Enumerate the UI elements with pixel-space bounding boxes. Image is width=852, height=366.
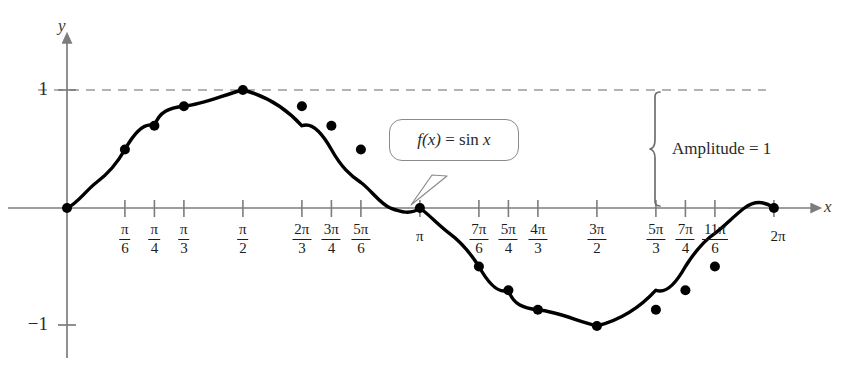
function-callout-box: f(x) = sin x <box>389 119 519 161</box>
x-tick-num-0: π <box>119 222 131 240</box>
x-tick-num-9: 5π <box>499 222 518 240</box>
x-tick-den-2: 3 <box>178 240 190 257</box>
x-tick-num-4: 2π <box>292 222 311 240</box>
x-tick-label-5: 3π4 <box>322 222 341 257</box>
x-tick-label-7: π <box>416 222 424 244</box>
x-tick-den-9: 4 <box>499 240 518 257</box>
callout-variable: x <box>483 130 491 150</box>
x-tick-plain-15: 2π <box>770 222 785 244</box>
x-tick-den-4: 3 <box>292 240 311 257</box>
x-tick-label-15: 2π <box>770 222 785 244</box>
callout-equals-sin: = sin <box>445 130 479 150</box>
x-tick-den-1: 4 <box>149 240 161 257</box>
x-tick-den-11: 2 <box>587 240 606 257</box>
x-tick-num-3: π <box>237 222 249 240</box>
x-tick-label-1: π4 <box>149 222 161 257</box>
y-tick-label-one: 1 <box>18 78 48 100</box>
x-tick-label-8: 7π6 <box>469 222 488 257</box>
x-tick-plain-7: π <box>416 222 424 244</box>
x-tick-label-13: 7π4 <box>676 222 695 257</box>
x-tick-label-9: 5π4 <box>499 222 518 257</box>
callout-pointer-tail <box>411 175 447 205</box>
amplitude-label: Amplitude = 1 <box>672 139 771 159</box>
x-tick-label-10: 4π3 <box>528 222 547 257</box>
x-tick-num-2: π <box>178 222 190 240</box>
x-tick-num-1: π <box>149 222 161 240</box>
x-tick-den-14: 6 <box>702 240 728 257</box>
x-tick-den-0: 6 <box>119 240 131 257</box>
callout-function-name: f(x) <box>417 130 441 150</box>
x-tick-label-6: 5π6 <box>351 222 370 257</box>
x-tick-num-5: 3π <box>322 222 341 240</box>
x-tick-num-14: 11π <box>702 222 728 240</box>
x-tick-den-3: 2 <box>237 240 249 257</box>
x-tick-label-14: 11π6 <box>702 222 728 257</box>
y-tick-label-negative-one: −1 <box>8 313 48 335</box>
x-tick-label-3: π2 <box>237 222 249 257</box>
sine-curve-figure: y x 1 −1 π6 π4 π3 π2 2π3 3π4 5π6 π 7π6 5… <box>0 0 852 366</box>
chart-canvas <box>0 0 852 366</box>
x-tick-label-2: π3 <box>178 222 190 257</box>
x-tick-num-12: 5π <box>646 222 665 240</box>
x-tick-den-10: 3 <box>528 240 547 257</box>
x-tick-den-13: 4 <box>676 240 695 257</box>
x-tick-den-12: 3 <box>646 240 665 257</box>
x-tick-num-8: 7π <box>469 222 488 240</box>
x-tick-den-6: 6 <box>351 240 370 257</box>
x-tick-num-10: 4π <box>528 222 547 240</box>
amplitude-brace <box>650 92 660 206</box>
x-tick-den-8: 6 <box>469 240 488 257</box>
x-tick-label-4: 2π3 <box>292 222 311 257</box>
y-axis-label: y <box>58 16 66 36</box>
x-tick-label-11: 3π2 <box>587 222 606 257</box>
x-tick-num-11: 3π <box>587 222 606 240</box>
x-tick-label-0: π6 <box>119 222 131 257</box>
x-axis-label: x <box>824 197 832 217</box>
x-tick-label-12: 5π3 <box>646 222 665 257</box>
x-tick-den-5: 4 <box>322 240 341 257</box>
x-tick-num-6: 5π <box>351 222 370 240</box>
x-tick-num-13: 7π <box>676 222 695 240</box>
